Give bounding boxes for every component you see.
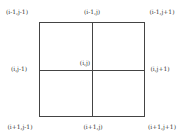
horizontal-divider xyxy=(40,70,144,71)
label-top-center: (i-1,j) xyxy=(84,9,100,15)
label-middle-right: (i,j+1) xyxy=(150,66,169,72)
label-middle-left: (i,j-1) xyxy=(11,66,27,72)
label-bottom-center: (i+1,j) xyxy=(83,124,102,130)
label-bottom-left: (i+1,j-1) xyxy=(7,124,32,130)
label-center: (i,j) xyxy=(80,60,90,66)
label-top-right: (i-1,j+1) xyxy=(149,9,174,15)
stencil-grid xyxy=(39,22,145,117)
label-top-left: (i-1,j-1) xyxy=(6,9,28,15)
label-bottom-right: (i+1,j+1) xyxy=(148,124,176,130)
